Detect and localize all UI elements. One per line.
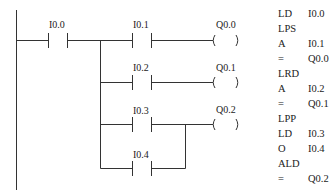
- contact-i0-1-symbol: [133, 33, 152, 48]
- il-operand: Q0.0: [308, 51, 329, 66]
- il-row: OI0.4: [278, 141, 336, 156]
- contact-i0-0-symbol: [49, 33, 68, 48]
- coil-q0-1-symbol: [213, 77, 238, 88]
- il-row: =Q0.2: [278, 171, 336, 186]
- il-operand: I0.1: [308, 36, 325, 51]
- il-row: AI0.1: [278, 36, 336, 51]
- il-row: LDI0.3: [278, 126, 336, 141]
- il-operand: I0.4: [308, 141, 325, 156]
- il-opcode: A: [278, 36, 286, 51]
- coil-label-q0-0: Q0.0: [216, 20, 236, 30]
- il-opcode: =: [278, 96, 284, 111]
- contact-label-i0-2: I0.2: [133, 63, 149, 73]
- il-row: LRD: [278, 66, 336, 81]
- il-operand: I0.0: [308, 6, 325, 21]
- contact-label-i0-1: I0.1: [133, 20, 149, 30]
- il-row: ALD: [278, 156, 336, 171]
- contact-label-i0-3: I0.3: [133, 106, 149, 116]
- coil-q0-0-symbol: [213, 35, 238, 46]
- il-row: AI0.2: [278, 81, 336, 96]
- ladder-diagram: I0.0 I0.1 I0.2 I0.3 I0.4 Q0.0 Q0.1 Q0.2 …: [0, 0, 336, 195]
- il-opcode: LPS: [278, 21, 296, 36]
- contact-label-i0-0: I0.0: [49, 20, 65, 30]
- il-row: =Q0.1: [278, 96, 336, 111]
- il-opcode: O: [278, 141, 286, 156]
- contact-i0-4-symbol: [133, 161, 152, 176]
- il-opcode: LD: [278, 126, 292, 141]
- il-operand: I0.2: [308, 81, 325, 96]
- il-opcode: LD: [278, 6, 292, 21]
- il-opcode: LRD: [278, 66, 299, 81]
- il-operand: I0.3: [308, 126, 325, 141]
- coil-label-q0-1: Q0.1: [216, 63, 236, 73]
- instruction-list: LDI0.0 LPS AI0.1 =Q0.0 LRD AI0.2 =Q0.1 L…: [278, 6, 336, 186]
- il-opcode: =: [278, 51, 284, 66]
- il-opcode: LPP: [278, 111, 296, 126]
- il-row: LDI0.0: [278, 6, 336, 21]
- il-opcode: A: [278, 81, 286, 96]
- il-row: LPP: [278, 111, 336, 126]
- contact-i0-2-symbol: [133, 75, 152, 90]
- il-row: LPS: [278, 21, 336, 36]
- coil-label-q0-2: Q0.2: [216, 105, 236, 115]
- il-opcode: ALD: [278, 156, 300, 171]
- coil-q0-2-symbol: [213, 119, 238, 130]
- il-opcode: =: [278, 171, 284, 186]
- contact-i0-3-symbol: [133, 117, 152, 132]
- il-operand: Q0.2: [308, 171, 329, 186]
- il-operand: Q0.1: [308, 96, 329, 111]
- contact-label-i0-4: I0.4: [133, 150, 149, 160]
- il-row: =Q0.0: [278, 51, 336, 66]
